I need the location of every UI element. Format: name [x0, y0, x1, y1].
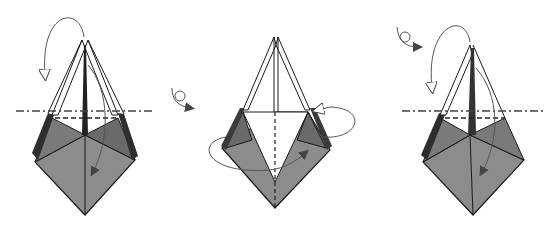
fold-behind-arrow: [431, 26, 470, 88]
step-2-figure: [172, 37, 355, 208]
step-3-figure: [397, 26, 545, 215]
origami-diagram: [0, 0, 557, 230]
step-1-figure: [16, 18, 155, 215]
turn-over-icon: [397, 27, 418, 47]
turn-over-icon: [172, 88, 190, 108]
